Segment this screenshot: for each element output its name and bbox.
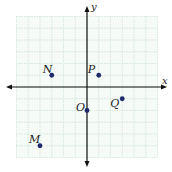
- point-label-n: N: [42, 63, 53, 76]
- point-o: [85, 108, 90, 113]
- point-label-m: M: [28, 133, 41, 146]
- point-q: [120, 96, 125, 101]
- point-p: [96, 73, 101, 78]
- y-axis-bottom-arrow-icon: [85, 161, 90, 167]
- y-axis-label: y: [90, 1, 97, 12]
- x-axis-label: x: [162, 75, 168, 86]
- y-axis-top-arrow-icon: [85, 6, 90, 12]
- coordinate-plane: x y NPOQM: [0, 0, 172, 172]
- point-label-p: P: [87, 63, 96, 76]
- point-label-o: O: [76, 101, 85, 114]
- point-label-q: Q: [110, 97, 119, 110]
- x-axis-left-arrow-icon: [6, 85, 12, 90]
